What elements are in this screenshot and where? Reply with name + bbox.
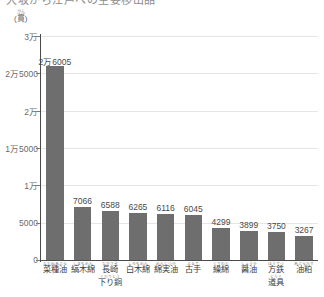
- bar-chart: かん (貫) 3万2万50002万1万50001万50000 2万6005706…: [0, 7, 324, 297]
- bar-value-label: 6116: [156, 203, 174, 213]
- bar[interactable]: [268, 232, 286, 260]
- plot-area: 2万60057066658862656116604542993899375032…: [41, 36, 318, 260]
- bar[interactable]: [74, 207, 92, 260]
- x-label-text: 醤油: [241, 266, 257, 275]
- x-label-text: 油粕: [294, 266, 314, 275]
- gridline: [41, 111, 318, 112]
- gridline: [41, 73, 318, 74]
- gridline: [41, 36, 318, 37]
- bar[interactable]: [185, 215, 203, 260]
- x-axis-label: しょうゆ醤油: [241, 262, 257, 275]
- x-axis-label: くりわた繰綿: [213, 262, 229, 275]
- x-axis-label: しろもめん白木綿: [126, 262, 150, 275]
- page-title: 大坂から江戸への主要移出品: [6, 0, 156, 7]
- x-axis-label: ながさき長崎くだりどう下り銅: [98, 262, 122, 288]
- y-axis-labels: 3万2万50002万1万50001万50000: [0, 7, 38, 297]
- bar-value-label: 3750: [267, 221, 286, 231]
- bar-value-label: 6588: [101, 200, 120, 210]
- bar[interactable]: [240, 231, 258, 260]
- bar[interactable]: [212, 228, 230, 260]
- x-axis-label: なたねあぶら菜種油: [43, 262, 67, 275]
- x-label-text: 下り銅: [98, 279, 122, 288]
- chart-title-strip: 大坂から江戸への主要移出品: [0, 0, 324, 7]
- bar-value-label: 7066: [73, 196, 92, 206]
- bar[interactable]: [129, 213, 147, 260]
- bar[interactable]: [102, 211, 120, 260]
- x-axis-label: ほうてつ方鉄どうぐ道具: [268, 262, 284, 288]
- bar-value-label: 2万6005: [38, 55, 71, 67]
- x-axis-label: めんじつゆ綿実油: [154, 262, 178, 275]
- x-axis-label: ふるて古手: [185, 262, 201, 275]
- bar[interactable]: [295, 236, 313, 260]
- gridline: [41, 185, 318, 186]
- x-axis-labels: なたねあぶら菜種油しまもめん縞木綿ながさき長崎くだりどう下り銅しろもめん白木綿め…: [41, 262, 318, 297]
- x-label-text: 繰綿: [213, 266, 229, 275]
- x-label-text: 綿実油: [154, 266, 178, 275]
- x-label-text: 縞木綿: [71, 266, 95, 275]
- bar-value-label: 4299: [212, 217, 231, 227]
- x-label-text: 道具: [268, 279, 284, 288]
- bar[interactable]: [157, 214, 175, 260]
- bar[interactable]: [46, 66, 64, 260]
- y-axis-tick-label: 1万5000: [5, 142, 38, 154]
- x-label-text: 方鉄: [268, 266, 284, 275]
- x-label-text: 古手: [185, 266, 201, 275]
- bar-value-label: 6045: [184, 204, 203, 214]
- bar-value-label: 3899: [239, 220, 258, 230]
- bar-value-label: 3267: [295, 225, 314, 235]
- bar-value-label: 6265: [128, 202, 147, 212]
- x-label-text: 菜種油: [43, 266, 67, 275]
- y-axis-tick-label: 2万5000: [5, 67, 38, 79]
- x-label-text: 白木綿: [126, 266, 150, 275]
- x-axis-label: しまもめん縞木綿: [71, 262, 95, 275]
- x-axis-label: あぶらかす油粕: [294, 262, 314, 275]
- x-label-text: 長崎: [98, 266, 122, 275]
- gridline: [41, 148, 318, 149]
